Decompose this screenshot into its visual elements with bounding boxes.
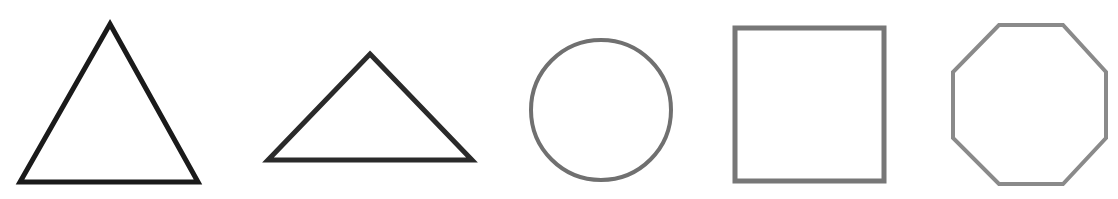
canvas-background: [0, 0, 1118, 199]
shapes-canvas: [0, 0, 1118, 199]
